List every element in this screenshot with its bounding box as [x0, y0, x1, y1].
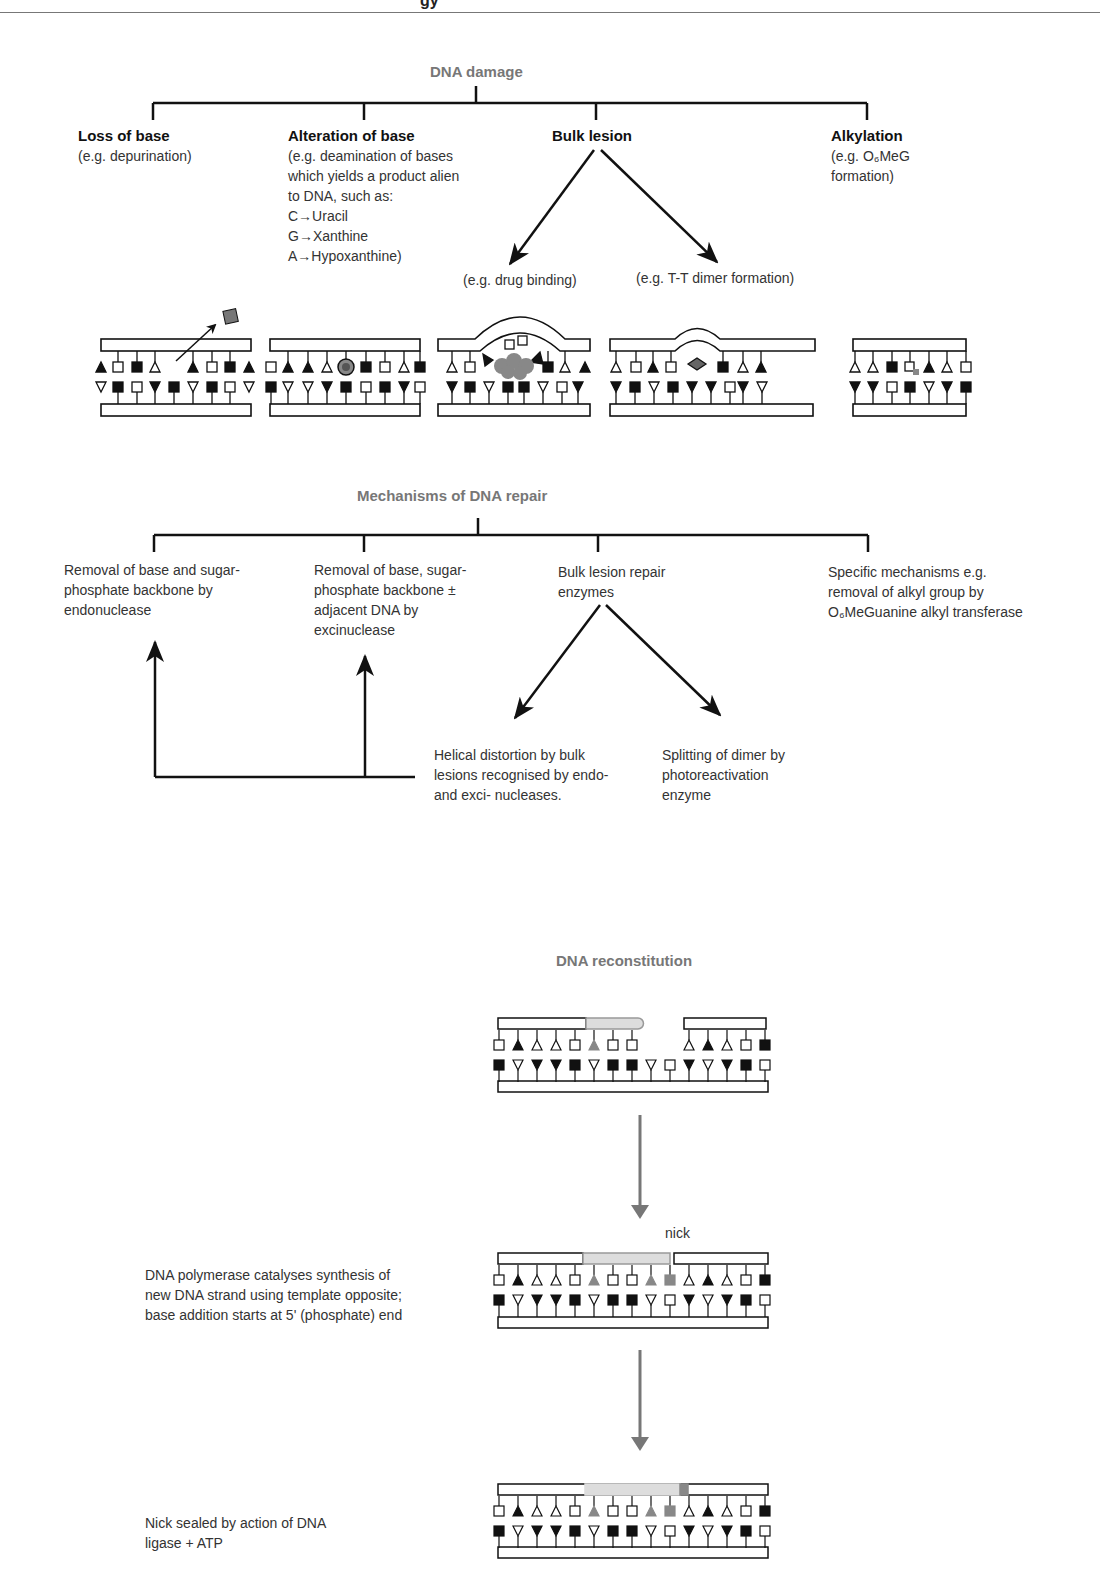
category-title: Alteration of base	[288, 126, 498, 146]
category-desc: (e.g. O₆MeG formation)	[831, 148, 910, 184]
damage-category-loss-of-base: Loss of base (e.g. depurination)	[78, 126, 268, 166]
lost-base-icon	[223, 309, 238, 324]
damage-category-bulk-lesion: Bulk lesion	[552, 126, 692, 146]
bulk-example-tt-dimer: (e.g. T-T dimer formation)	[636, 268, 794, 288]
repair-item-bulk-lesion-enzymes: Bulk lesion repair enzymes	[558, 562, 718, 602]
category-desc: (e.g. depurination)	[78, 148, 192, 164]
category-title: Alkylation	[831, 126, 971, 146]
step-polymerase-caption: DNA polymerase catalyses synthesis of ne…	[145, 1265, 445, 1325]
dna-reconstitution-title: DNA reconstitution	[556, 952, 692, 969]
step-ligase-caption: Nick sealed by action of DNA ligase + AT…	[145, 1513, 385, 1553]
repair-outcome-helical-distortion: Helical distortion by bulk lesions recog…	[434, 745, 634, 805]
damage-category-alteration-of-base: Alteration of base (e.g. deamination of …	[288, 126, 498, 266]
repair-outcome-photoreactivation: Splitting of dimer by photoreactivation …	[662, 745, 842, 805]
category-title: Bulk lesion	[552, 126, 692, 146]
category-desc: (e.g. deamination of bases which yields …	[288, 148, 459, 264]
drug-cloud-icon	[494, 353, 534, 380]
repair-item-excinuclease: Removal of base, sugar- phosphate backbo…	[314, 560, 514, 640]
bulk-example-drug-binding: (e.g. drug binding)	[463, 270, 577, 290]
repair-item-endonuclease: Removal of base and sugar- phosphate bac…	[64, 560, 284, 620]
nick-label: nick	[665, 1223, 690, 1243]
methyl-group-icon	[913, 369, 919, 375]
repair-item-specific-mechanisms: Specific mechanisms e.g. removal of alky…	[828, 562, 1068, 622]
dna-repair-title: Mechanisms of DNA repair	[357, 487, 547, 504]
damage-category-alkylation: Alkylation (e.g. O₆MeG formation)	[831, 126, 971, 186]
category-title: Loss of base	[78, 126, 268, 146]
